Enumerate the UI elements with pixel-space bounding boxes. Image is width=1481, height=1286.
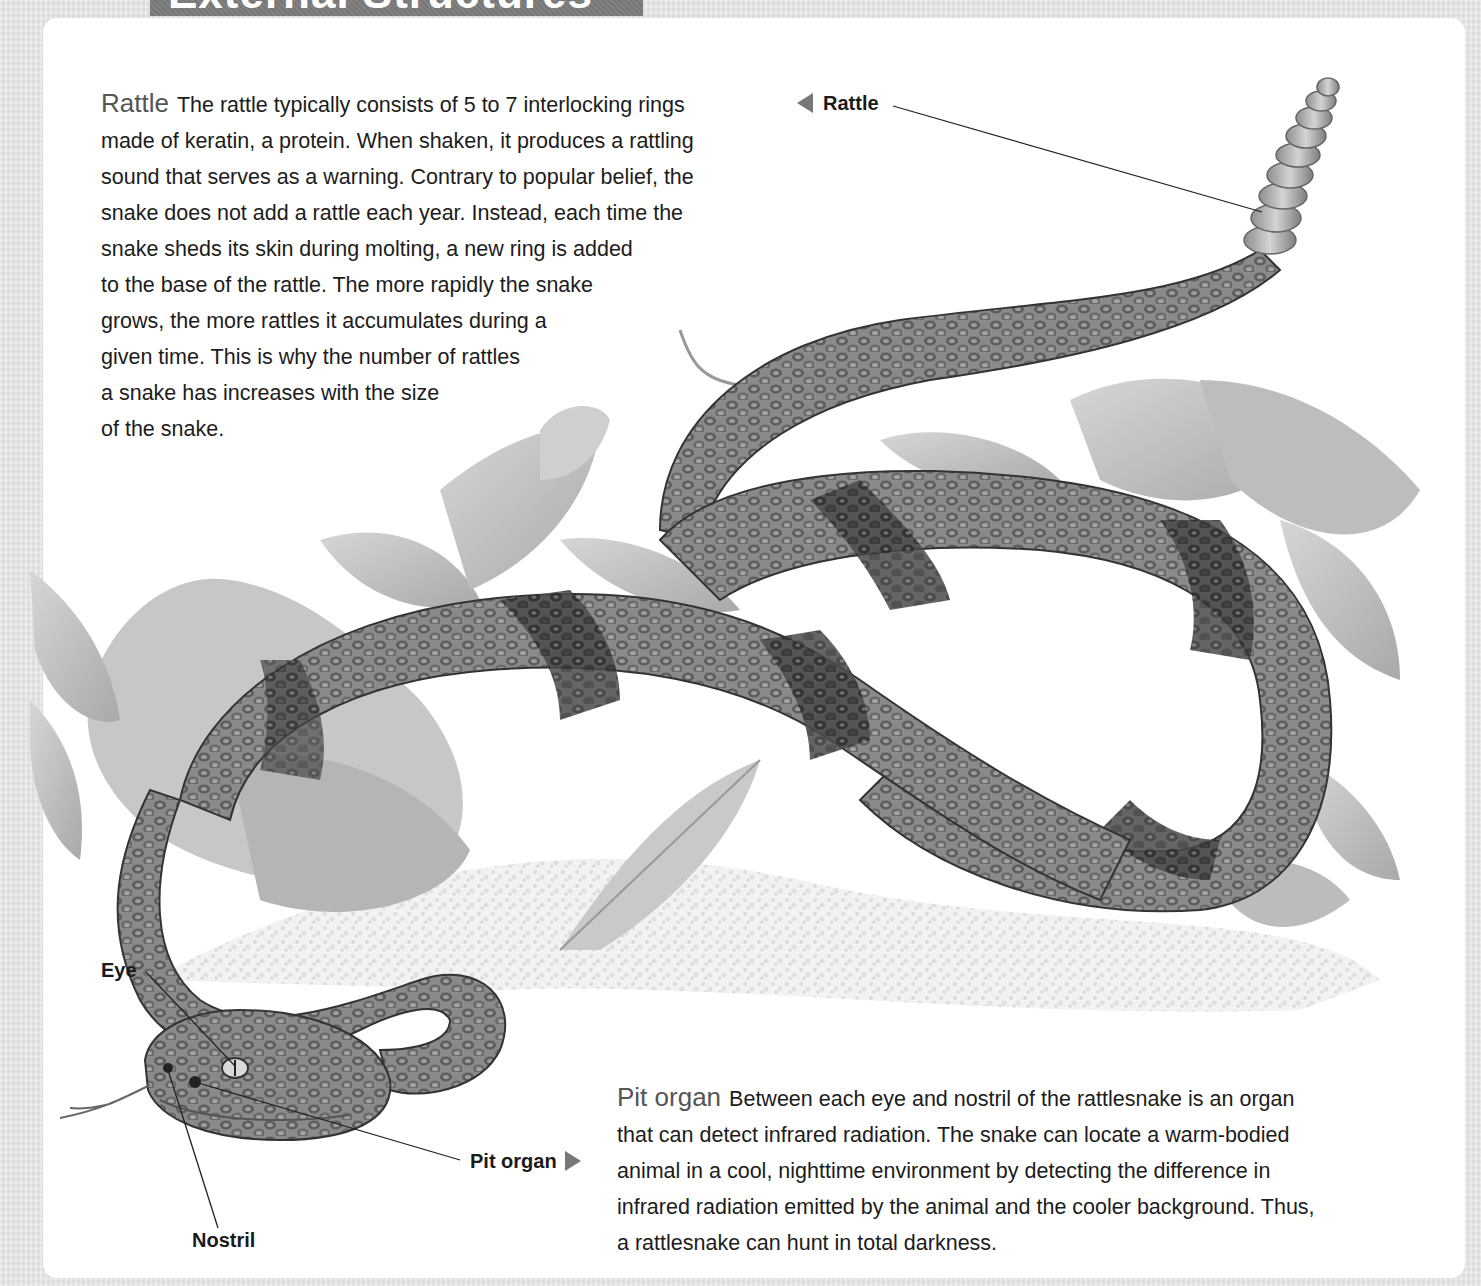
rattle-callout: Rattle xyxy=(797,92,879,115)
rattle-line-9: a snake has increases with the size xyxy=(101,375,694,411)
rattle-line-5: snake sheds its skin during molting, a n… xyxy=(101,231,694,267)
pit-organ-callout: Pit organ xyxy=(470,1150,581,1173)
section-title-tab: External Structures xyxy=(150,0,643,16)
nostril-callout-label: Nostril xyxy=(192,1229,255,1251)
pit-line-2: that can detect infrared radiation. The … xyxy=(617,1117,1315,1153)
rattle-callout-label: Rattle xyxy=(823,92,879,114)
rattle-line-8: given time. This is why the number of ra… xyxy=(101,339,694,375)
rattle-line-2: made of keratin, a protein. When shaken,… xyxy=(101,123,694,159)
rattle-line-7: grows, the more rattles it accumulates d… xyxy=(101,303,694,339)
pit-line-3: animal in a cool, nighttime environment … xyxy=(617,1153,1315,1189)
rattle-line-4: snake does not add a rattle each year. I… xyxy=(101,195,694,231)
pit-line-4: infrared radiation emitted by the animal… xyxy=(617,1189,1315,1225)
pit-organ-heading: Pit organ xyxy=(617,1082,721,1112)
triangle-left-icon xyxy=(797,93,813,113)
section-title: External Structures xyxy=(168,0,593,16)
rattle-heading: Rattle xyxy=(101,88,169,118)
nostril-callout: Nostril xyxy=(192,1229,255,1252)
pit-line-5: a rattlesnake can hunt in total darkness… xyxy=(617,1225,1315,1261)
eye-callout: Eye xyxy=(101,959,137,982)
triangle-right-icon xyxy=(565,1151,581,1171)
eye-callout-label: Eye xyxy=(101,959,137,981)
rattle-description: RattleThe rattle typically consists of 5… xyxy=(101,85,694,447)
pit-organ-description: Pit organBetween each eye and nostril of… xyxy=(617,1079,1315,1261)
pit-line-1: Pit organBetween each eye and nostril of… xyxy=(617,1079,1315,1117)
rattle-line-10: of the snake. xyxy=(101,411,694,447)
rattle-line-1: RattleThe rattle typically consists of 5… xyxy=(101,85,694,123)
pit-organ-callout-label: Pit organ xyxy=(470,1150,557,1172)
rattle-line-6: to the base of the rattle. The more rapi… xyxy=(101,267,694,303)
rattle-line-3: sound that serves as a warning. Contrary… xyxy=(101,159,694,195)
